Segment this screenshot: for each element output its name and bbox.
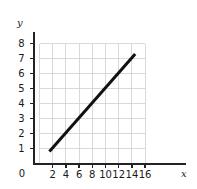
- y-tick-label: 8: [11, 39, 25, 49]
- y-tick-label: 4: [11, 99, 25, 109]
- y-tick-label: 5: [11, 84, 25, 94]
- x-axis-label: x: [181, 169, 187, 179]
- origin-label: 0: [14, 169, 30, 179]
- x-tick-label: 16: [137, 170, 153, 180]
- y-tick-label: 6: [11, 69, 25, 79]
- y-tick-label: 3: [11, 114, 25, 124]
- y-axis-label: y: [17, 18, 23, 28]
- y-tick-label: 2: [11, 129, 25, 139]
- line-chart: y x 0 12345678 246810121416: [0, 0, 197, 189]
- chart-canvas: [0, 0, 197, 189]
- y-tick-label: 1: [11, 144, 25, 154]
- y-tick-label: 7: [11, 54, 25, 64]
